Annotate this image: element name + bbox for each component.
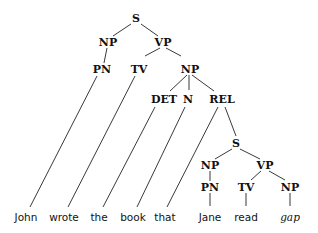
tree-edge-vp1-np2 (166, 48, 181, 56)
tree-edge-tv1-w2 (68, 76, 135, 207)
tree-node-vp1: VP (155, 36, 172, 49)
tree-edge-s1-np1 (113, 24, 131, 36)
tree-edge-s2-vp2 (240, 149, 260, 159)
syntax-tree: SNPVPPNTVNPDETNRELSNPVPPNTVNPJohnwroteth… (0, 0, 318, 233)
leaf-word-w3: the (90, 211, 107, 223)
tree-edge-np1-pn1 (104, 48, 107, 63)
leaf-word-w4: book (120, 211, 146, 223)
tree-node-np2: NP (181, 63, 199, 76)
leaf-word-w5: that (154, 211, 175, 223)
tree-node-pn1: PN (93, 63, 111, 76)
tree-edge-np2-rel (192, 75, 214, 91)
tree-node-s2: S (232, 137, 240, 150)
leaf-word-w2: wrote (49, 211, 79, 223)
tree-edge-rel-s2 (225, 107, 236, 136)
tree-node-tv1: TV (131, 63, 148, 76)
tree-edge-n-w4 (137, 107, 185, 207)
tree-edge-s2-np3 (215, 149, 232, 159)
tree-edge-pn1-w1 (30, 76, 97, 207)
tree-node-pn2: PN (201, 181, 219, 194)
tree-node-tv2: TV (238, 181, 255, 194)
tree-edge-vp1-tv1 (145, 48, 160, 56)
tree-node-np4: NP (281, 181, 299, 194)
tree-node-vp2: VP (257, 159, 274, 172)
leaf-word-w8: gap (280, 211, 300, 223)
tree-edge-det-w3 (103, 107, 155, 207)
tree-edge-vp2-tv2 (251, 171, 261, 180)
tree-edge-np2-det (170, 75, 187, 91)
tree-node-s1: S (132, 12, 140, 25)
leaf-word-w7: read (234, 211, 258, 223)
tree-edge-vp2-np4 (269, 171, 285, 180)
tree-node-np3: NP (201, 159, 219, 172)
leaf-word-w6: Jane (199, 211, 222, 223)
tree-node-det: DET (151, 93, 177, 106)
tree-node-np1: NP (99, 36, 117, 49)
tree-edge-s1-vp1 (141, 24, 158, 36)
tree-node-rel: REL (209, 93, 234, 106)
leaf-word-w1: John (15, 211, 38, 223)
tree-node-n: N (183, 93, 193, 106)
